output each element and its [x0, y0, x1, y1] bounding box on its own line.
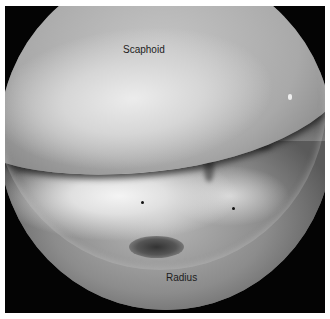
arthroscope-field-of-view [5, 6, 325, 310]
radius-label: Radius [166, 272, 197, 283]
radius-depression [129, 236, 184, 258]
scaphoid-label: Scaphoid [123, 44, 165, 55]
arthroscopy-image [5, 6, 325, 313]
marker-dot-right [232, 207, 235, 210]
instrument-glint [288, 94, 292, 100]
marker-dot-left [141, 201, 144, 204]
